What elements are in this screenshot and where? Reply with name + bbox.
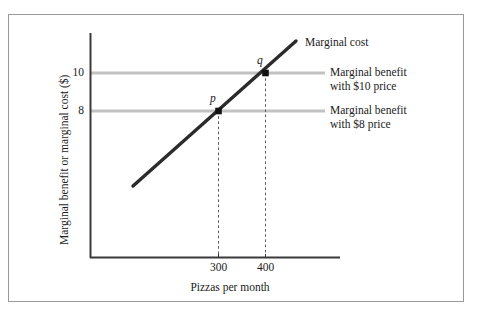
marginal-cost-line — [133, 41, 296, 186]
x-tick-label-300: 300 — [196, 261, 241, 275]
data-point-q — [262, 70, 269, 77]
mb8-label-line1: Marginal benefit — [330, 104, 407, 118]
mb10-label-line2: with $10 price — [330, 80, 407, 94]
data-point-p — [215, 108, 222, 115]
y-axis-title: Marginal benefit or marginal cost ($) — [58, 75, 72, 245]
point-label-q: q — [257, 54, 263, 68]
mb10-label: Marginal benefit with $10 price — [330, 66, 407, 93]
mb10-label-line1: Marginal benefit — [330, 66, 407, 80]
point-label-p: p — [210, 92, 216, 106]
x-axis-title: Pizzas per month — [160, 281, 300, 295]
x-tick-label-400: 400 — [243, 261, 288, 275]
mb8-label-line2: with $8 price — [330, 118, 407, 132]
mb8-label: Marginal benefit with $8 price — [330, 104, 407, 131]
figure-container: 10 8 300 400 Pizzas per month Marginal b… — [0, 0, 488, 316]
marginal-cost-label: Marginal cost — [305, 36, 368, 50]
